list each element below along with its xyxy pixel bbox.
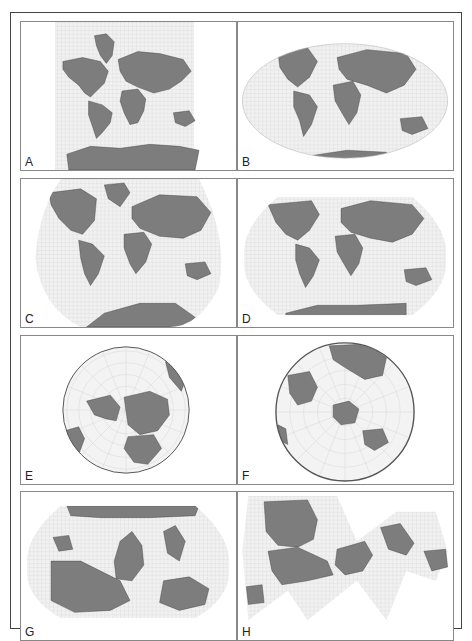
map-f [238,336,453,484]
panel-label: A [25,156,33,168]
map-d [238,179,453,327]
panel-c: C [20,178,237,328]
map-e [21,336,236,484]
panel-label: D [242,313,251,325]
panel-a: A [20,21,237,171]
panel-b: B [237,21,454,171]
map-g [21,492,236,640]
panel-label: F [242,470,249,482]
map-a [21,22,236,170]
panel-d: D [237,178,454,328]
map-b [238,22,453,170]
panel-label: H [242,626,251,638]
panel-label: E [25,470,33,482]
panel-f: F [237,335,454,485]
panel-e: E [20,335,237,485]
panel-h: H [237,491,454,641]
figure-frame: A B [10,12,462,629]
map-c [21,179,236,327]
panel-g: G [20,491,237,641]
map-h [238,492,453,640]
panel-label: C [25,313,34,325]
panel-label: B [242,156,250,168]
panel-label: G [25,626,34,638]
